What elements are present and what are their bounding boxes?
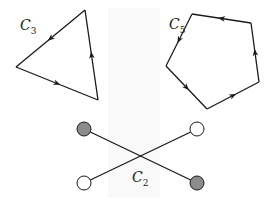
edge <box>16 67 98 100</box>
empty-node <box>190 122 204 136</box>
filled-node <box>190 176 204 190</box>
label-c2: C2 <box>132 170 148 188</box>
edge <box>207 82 259 109</box>
filled-node <box>77 122 91 136</box>
edge <box>166 66 207 109</box>
edge <box>85 10 98 100</box>
label-c5: C5 <box>169 17 185 35</box>
empty-node <box>77 176 91 190</box>
label-c3: C3 <box>20 18 36 36</box>
edge <box>192 14 251 23</box>
edge <box>251 23 259 82</box>
